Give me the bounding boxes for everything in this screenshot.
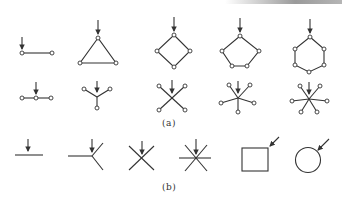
square-graph (155, 17, 192, 69)
hexagon-graph (293, 19, 326, 74)
triangle-graph (78, 20, 118, 65)
symbol-circle (296, 139, 330, 173)
symbol-line (15, 139, 43, 155)
chain-2-node (20, 37, 54, 55)
arrow-icon (270, 137, 279, 146)
scan-edge-shadow (225, 0, 342, 4)
chain-3-node (20, 82, 53, 100)
panel-b-label: (b) (162, 182, 176, 192)
pentagon-graph (220, 18, 261, 68)
diagram-canvas (0, 0, 342, 204)
symbol-x-junction (129, 141, 154, 170)
arrow-icon (318, 139, 329, 150)
symbol-asterisk-6 (179, 139, 211, 171)
star-6-arm (290, 82, 329, 114)
symbol-square (242, 137, 279, 171)
star-3-arm (82, 81, 112, 110)
symbol-y-junction (68, 139, 103, 170)
star-4-arm (157, 80, 187, 112)
star-5-arm (219, 81, 256, 114)
diagram-figure: (a) (b) (0, 0, 342, 204)
panel-a-label: (a) (162, 118, 176, 128)
